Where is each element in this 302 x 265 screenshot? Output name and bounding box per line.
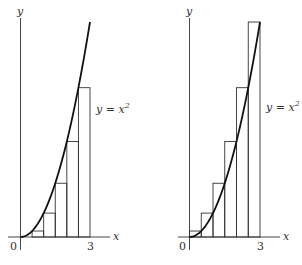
riemann-rectangle [225,141,237,237]
riemann-rectangle [237,88,249,237]
curve-label: y = x2 [265,99,300,114]
x-axis-label: x [283,230,290,243]
riemann-rectangle [32,231,44,237]
x-tick-3-label: 3 [87,240,94,253]
origin-label: 0 [10,240,17,253]
y-axis-label: y [16,5,24,18]
y-axis-label: y [185,5,193,18]
right-rectangles [190,22,261,237]
x-tick-3-label: 3 [257,240,264,253]
riemann-rectangle [67,141,79,237]
curve-label: y = x2 [95,101,130,116]
x-axis-label: x [113,230,120,243]
origin-label: 0 [179,240,186,253]
right-panel-upper-sum: y x 0 3 y = x2 [178,5,300,253]
riemann-sum-diagram: y x 0 3 y = x2 y x 0 3 y = x2 [0,0,302,265]
riemann-rectangle [55,183,67,237]
riemann-rectangle [78,88,90,237]
riemann-rectangle [44,213,56,237]
left-panel-lower-sum: y x 0 3 y = x2 [8,5,130,253]
